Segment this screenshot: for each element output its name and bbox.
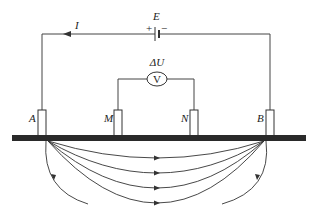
electrode-b	[266, 110, 274, 136]
electrode-m-label: M	[103, 112, 114, 124]
electrodes	[38, 110, 274, 136]
field-arrows	[51, 156, 260, 206]
voltmeter-symbol: V	[153, 73, 161, 85]
electrode-a-label: A	[28, 112, 36, 124]
minus-sign: −	[161, 22, 167, 34]
electrode-n-label: N	[180, 112, 189, 124]
ground-surface	[12, 135, 306, 141]
electrode-a	[38, 110, 46, 136]
electrode-n	[190, 110, 198, 136]
plus-sign: +	[146, 22, 152, 34]
emf-label: E	[152, 10, 160, 22]
battery-icon	[155, 27, 159, 41]
voltage-delta-label: ΔU	[149, 56, 165, 68]
current-label: I	[74, 19, 80, 31]
current-arrow-icon	[63, 31, 71, 37]
electrode-b-label: B	[257, 112, 264, 124]
circuit-diagram: I E + − V ΔU A M N B	[0, 0, 316, 221]
electrode-m	[114, 110, 122, 136]
